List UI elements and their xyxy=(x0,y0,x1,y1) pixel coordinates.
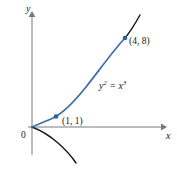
x-axis-label: x xyxy=(166,131,170,141)
data-point-1-1 xyxy=(54,114,59,119)
data-point-4-8 xyxy=(123,36,128,41)
equation-middle: = x xyxy=(107,80,123,91)
equation-label: y2 = x3 xyxy=(99,81,126,91)
equation-exponent-right: 3 xyxy=(123,79,126,86)
curve-upper-branch-continuation xyxy=(125,15,140,38)
point-label-1-1: (1, 1) xyxy=(62,117,83,127)
y-axis-label: y xyxy=(26,4,30,14)
curve-lower-branch xyxy=(32,127,76,163)
origin-label: 0 xyxy=(21,131,26,141)
point-label-4-8: (4, 8) xyxy=(129,37,150,47)
graph-figure: y x 0 (1, 1) (4, 8) y2 = x3 xyxy=(0,0,177,169)
plot-canvas xyxy=(0,0,177,169)
